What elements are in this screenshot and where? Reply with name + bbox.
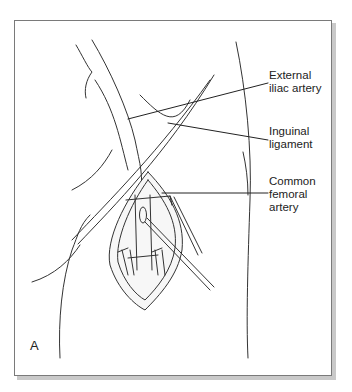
right-inner-contour: [243, 152, 248, 195]
label-line: Common: [269, 175, 316, 188]
label-line: artery: [269, 201, 316, 214]
label-line: Inguinal: [269, 125, 312, 138]
label-line: femoral: [269, 188, 316, 201]
label-inguinal-ligament: Inguinal ligament: [269, 125, 312, 151]
label-line: iliac artery: [269, 82, 321, 95]
label-line: External: [269, 69, 321, 82]
label-external-iliac-artery: External iliac artery: [269, 69, 321, 95]
label-line: ligament: [269, 138, 312, 151]
leader-inguinal: [168, 123, 268, 140]
lower-left-fold: [32, 245, 80, 282]
upper-left-fold: [72, 150, 112, 190]
panel-letter: A: [30, 338, 39, 353]
label-common-femoral-artery: Common femoral artery: [269, 175, 316, 214]
thigh-outline-left: [95, 80, 128, 170]
